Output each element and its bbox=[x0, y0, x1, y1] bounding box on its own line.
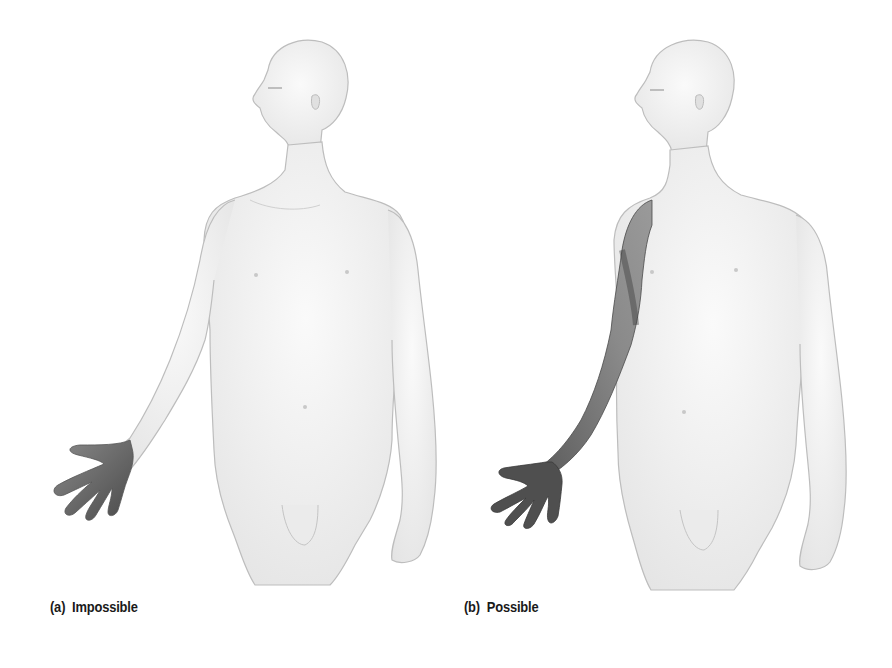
caption-b: (b) Possible bbox=[464, 598, 538, 615]
highlighted-hand bbox=[54, 440, 133, 520]
right-arm bbox=[796, 215, 846, 569]
torso bbox=[204, 142, 407, 585]
right-arm bbox=[388, 210, 436, 562]
human-figure-b-illustration bbox=[446, 0, 892, 668]
figure-panel-a: (a) Impossible bbox=[0, 0, 446, 668]
head bbox=[253, 40, 348, 150]
head bbox=[635, 40, 734, 152]
figure-panel-b: (b) Possible bbox=[446, 0, 892, 668]
human-figure-a-illustration bbox=[0, 0, 446, 668]
caption-a: (a) Impossible bbox=[50, 598, 138, 615]
